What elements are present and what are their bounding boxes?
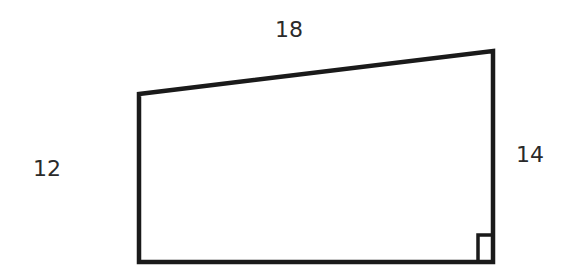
right-side-label: 14 — [516, 144, 544, 166]
trapezoid-shape — [139, 51, 493, 262]
top-side-label: 18 — [275, 19, 303, 41]
left-side-label: 12 — [33, 158, 61, 180]
